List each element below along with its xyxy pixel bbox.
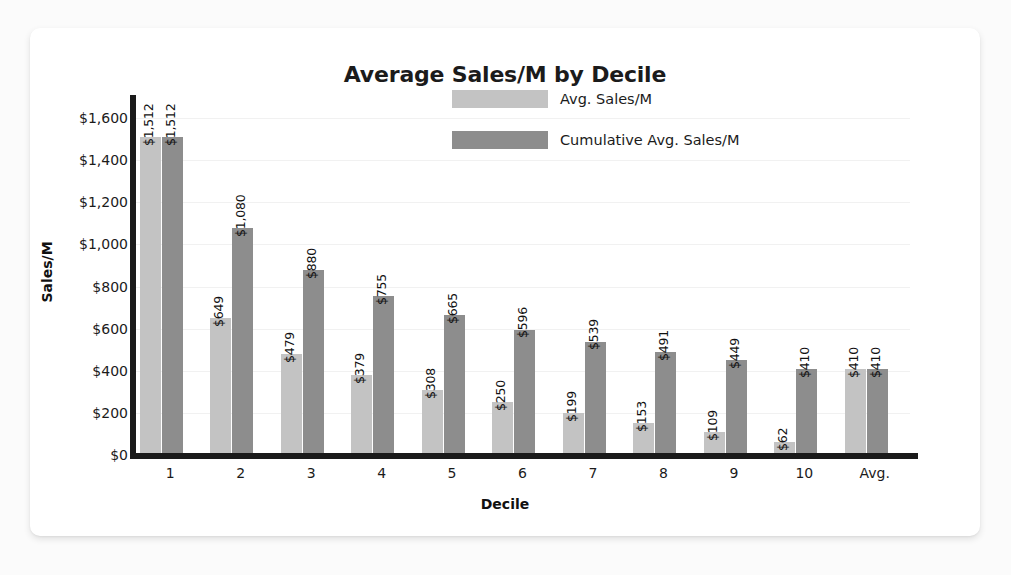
bar-value-label: $1,512 — [141, 103, 156, 146]
bar-value-label: $665 — [445, 293, 460, 324]
y-axis-tick-label: $1,400 — [50, 152, 128, 168]
y-axis-tick-label: $0 — [50, 447, 128, 463]
plot-area: $1,512$1,512$649$1,080$479$880$379$755$3… — [135, 97, 910, 455]
x-axis-title: Decile — [30, 496, 980, 512]
bar-value-label: $596 — [515, 307, 530, 338]
bar-group: $308$665 — [417, 97, 487, 455]
y-axis-tick-label: $1,200 — [50, 194, 128, 210]
x-axis-tick-label: Avg. — [840, 465, 910, 481]
bar[interactable] — [655, 352, 676, 455]
bar-value-label: $1,080 — [233, 194, 248, 237]
bar[interactable] — [444, 315, 465, 455]
bar[interactable] — [140, 137, 161, 455]
bar-value-label: $649 — [211, 296, 226, 327]
y-axis-title: Sales/M — [39, 241, 55, 302]
y-axis-tick-label: $200 — [50, 405, 128, 421]
bar-groups: $1,512$1,512$649$1,080$479$880$379$755$3… — [135, 97, 910, 455]
bar[interactable] — [281, 354, 302, 455]
bar-value-label: $755 — [374, 274, 389, 305]
bar[interactable] — [585, 342, 606, 456]
bar[interactable] — [303, 270, 324, 455]
x-axis-tick-label: 1 — [135, 465, 205, 481]
x-axis-tick-label: 5 — [417, 465, 487, 481]
bar-group: $479$880 — [276, 97, 346, 455]
bar-value-label: $410 — [846, 347, 861, 378]
bar-value-label: $308 — [423, 368, 438, 399]
bar-value-label: $479 — [282, 332, 297, 363]
y-axis-tick-label: $1,000 — [50, 236, 128, 252]
y-axis-tick-label: $800 — [50, 279, 128, 295]
x-axis-tick-labels: 12345678910Avg. — [135, 465, 910, 491]
chart-card: Average Sales/M by Decile $0$200$400$600… — [30, 28, 980, 536]
x-axis-tick-label: 10 — [769, 465, 839, 481]
bar[interactable] — [232, 228, 253, 455]
bar-value-label: $880 — [304, 248, 319, 279]
bar[interactable] — [867, 369, 888, 455]
bar-group: $410$410 — [840, 97, 910, 455]
bar-value-label: $410 — [868, 347, 883, 378]
bar-group: $379$755 — [346, 97, 416, 455]
bar-group: $109$449 — [699, 97, 769, 455]
y-axis-line — [130, 95, 136, 459]
y-axis-tick-label: $400 — [50, 363, 128, 379]
x-axis-tick-label: 4 — [346, 465, 416, 481]
x-axis-tick-label: 9 — [699, 465, 769, 481]
bar-value-label: $153 — [634, 401, 649, 432]
bar[interactable] — [210, 318, 231, 455]
bar-value-label: $410 — [797, 347, 812, 378]
bar-value-label: $250 — [493, 380, 508, 411]
bar-value-label: $539 — [586, 319, 601, 350]
x-axis-tick-label: 6 — [487, 465, 557, 481]
x-axis-line — [130, 453, 918, 459]
bar[interactable] — [373, 296, 394, 455]
bar-value-label: $379 — [352, 353, 367, 384]
x-axis-tick-label: 2 — [205, 465, 275, 481]
bar-group: $153$491 — [628, 97, 698, 455]
bar-group: $199$539 — [558, 97, 628, 455]
y-axis-tick-label: $1,600 — [50, 110, 128, 126]
x-axis-tick-label: 8 — [628, 465, 698, 481]
bar[interactable] — [422, 390, 443, 455]
bar-group: $1,512$1,512 — [135, 97, 205, 455]
x-axis-tick-label: 3 — [276, 465, 346, 481]
page-root: Average Sales/M by Decile $0$200$400$600… — [0, 0, 1011, 575]
bar[interactable] — [726, 360, 747, 455]
bar-chart: Average Sales/M by Decile $0$200$400$600… — [30, 28, 980, 536]
bar-group: $649$1,080 — [205, 97, 275, 455]
bar[interactable] — [162, 137, 183, 455]
bar-group: $62$410 — [769, 97, 839, 455]
bar[interactable] — [796, 369, 817, 455]
bar-value-label: $1,512 — [163, 103, 178, 146]
bar-group: $250$596 — [487, 97, 557, 455]
bar[interactable] — [351, 375, 372, 455]
bar-value-label: $449 — [727, 338, 742, 369]
chart-title: Average Sales/M by Decile — [30, 62, 980, 87]
x-axis-tick-label: 7 — [558, 465, 628, 481]
bar[interactable] — [845, 369, 866, 455]
bar-value-label: $62 — [775, 428, 790, 451]
bar[interactable] — [514, 330, 535, 456]
y-axis-tick-label: $600 — [50, 321, 128, 337]
bar-value-label: $199 — [564, 391, 579, 422]
bar-value-label: $109 — [705, 410, 720, 441]
bar-value-label: $491 — [656, 330, 671, 361]
